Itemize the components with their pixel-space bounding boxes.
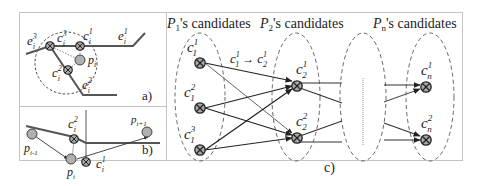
panel-c: P1's candidates P2's candidates Pn's can… — [166, 16, 457, 176]
candidate-c1-2-icon — [195, 103, 205, 113]
label-c1-1: c11 — [187, 37, 198, 58]
label-e1: e1i — [118, 27, 128, 46]
candidate-c2-icon-b — [70, 135, 79, 144]
panel-b-label: b) — [142, 142, 153, 157]
header-p2: P2's candidates — [259, 16, 344, 33]
candidate-c2-icon — [64, 66, 73, 75]
panel-b: pi-1 pi pi+1 c2i c1i b) — [23, 110, 160, 181]
gps-point-pi+1-icon — [142, 127, 152, 137]
label-e3: e3i — [27, 32, 37, 51]
panel-c-label: c) — [324, 160, 335, 176]
label-cn-1: c1n — [421, 60, 432, 81]
label-pi-b: pi — [66, 165, 75, 181]
gps-point-pi-1-icon — [27, 129, 37, 139]
candidate-c1-1-icon — [195, 58, 205, 68]
gps-point-pi-icon — [75, 55, 85, 65]
label-pi: pi — [87, 53, 96, 69]
candidate-c2-2-icon — [292, 133, 302, 143]
candidate-cn-2-icon — [421, 135, 431, 145]
transition-label: c11→c12 — [230, 50, 267, 69]
label-c1: c1i — [83, 27, 93, 46]
header-p1: P1's candidates — [166, 16, 251, 33]
candidate-c2-1-icon — [292, 81, 302, 91]
label-c1-b: c1i — [96, 155, 106, 174]
label-c2: c2i — [52, 64, 62, 83]
road-horizontal — [26, 126, 160, 143]
candidate-c1-3-icon — [195, 145, 205, 155]
panel-a-label: a) — [142, 88, 152, 103]
gps-point-pi-icon-b — [66, 154, 76, 164]
panel-a: e3i c3i c1i e1i pi c2i e2i a) — [26, 27, 152, 103]
label-c1-3: c31 — [184, 124, 196, 145]
candidate-c3-icon — [46, 42, 55, 51]
label-pi-1: pi-1 — [23, 141, 38, 157]
label-cn-2: c2n — [421, 113, 433, 134]
candidate-c1-icon-b — [82, 158, 91, 167]
label-e2: e2i — [82, 76, 92, 95]
header-pn: Pn's candidates — [372, 16, 457, 33]
label-pi+1: pi+1 — [130, 113, 147, 128]
label-c2-1: c12 — [296, 59, 307, 80]
label-c2-b: c2i — [68, 115, 78, 134]
candidate-cn-1-icon — [421, 82, 431, 92]
label-c2-2: c22 — [296, 111, 308, 132]
label-c1-2: c21 — [184, 82, 196, 103]
trajectory-matching-diagram: e3i c3i c1i e1i pi c2i e2i a) pi-1 pi pi… — [0, 0, 480, 186]
